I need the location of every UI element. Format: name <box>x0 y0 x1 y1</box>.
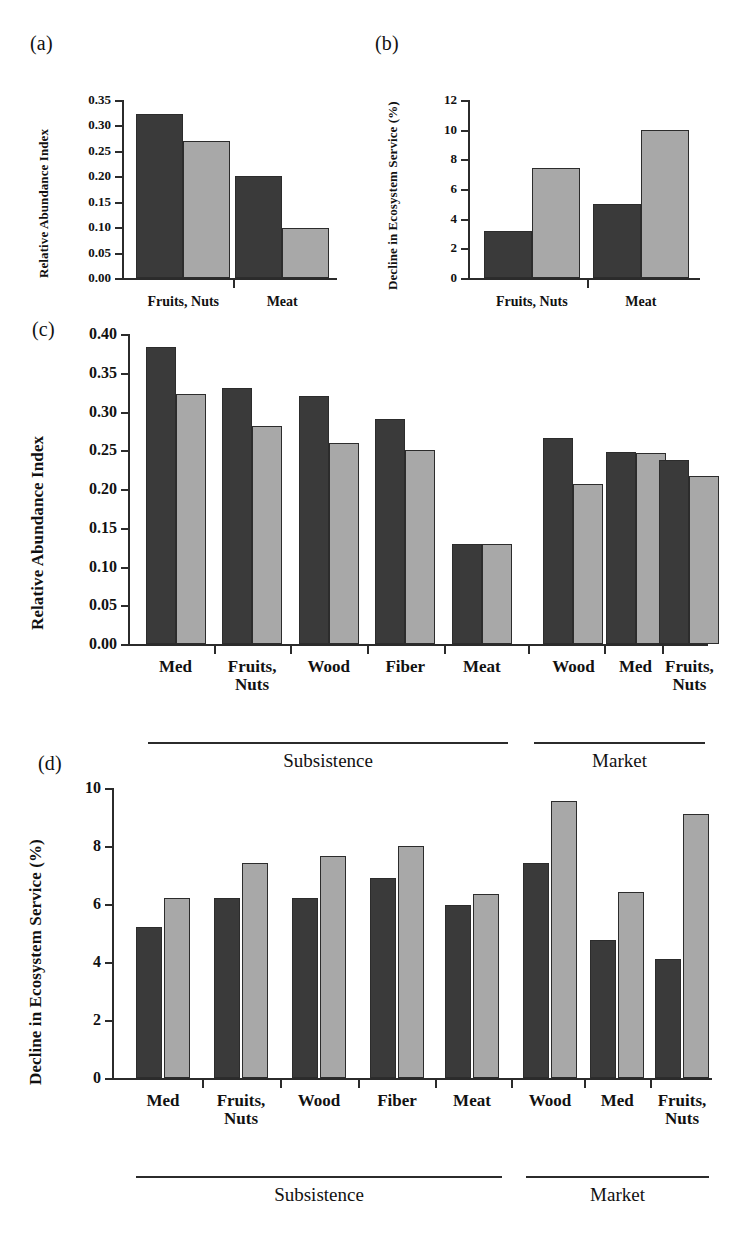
panel-c-y-tick-label: 0.40 <box>89 325 117 343</box>
panel-c-y-tick-label: 0.00 <box>89 635 117 653</box>
panel-d-group-label: Market <box>488 1184 735 1206</box>
panel-d-y-tick-label: 10 <box>85 779 101 797</box>
panel-b-bar-dark <box>484 231 532 278</box>
panel-c-bar-dark <box>299 396 329 644</box>
panel-d-bar-light <box>398 846 424 1078</box>
panel-d-x-tick <box>511 1080 513 1088</box>
panel-d-bar-dark <box>136 927 162 1078</box>
panel-c-x-tick <box>214 646 216 654</box>
panel-d-category-label: Fruits, Nuts <box>622 1092 735 1129</box>
panel-b-y-tick-label: 0 <box>451 270 458 286</box>
panel-a-y-tick <box>115 227 122 229</box>
panel-a-y-tick-label: 0.00 <box>88 270 111 286</box>
panel-c-bar-dark <box>606 452 636 644</box>
panel-b-category-label: Meat <box>581 294 701 309</box>
panel-c-y-tick <box>121 644 128 646</box>
panel-d-y-tick-label: 0 <box>93 1069 101 1087</box>
panel-c-category-label: Fruits, Nuts <box>629 658 735 695</box>
panel-d: (d) Decline in Ecosystem Service (%) 024… <box>0 740 735 1220</box>
panel-b-y-tick <box>461 248 468 250</box>
panel-a-y-tick-label: 0.15 <box>88 193 111 209</box>
panel-c-label: (c) <box>32 318 55 341</box>
panel-a-bar-dark <box>235 176 282 278</box>
panel-b-category-label: Fruits, Nuts <box>472 294 592 309</box>
panel-a-y-tick <box>115 100 122 102</box>
panel-b-x-axis <box>468 278 700 280</box>
panel-b-y-tick-label: 6 <box>451 181 458 197</box>
panel-b-y-tick-label: 4 <box>451 210 458 226</box>
panel-d-bar-dark <box>370 878 396 1078</box>
panel-d-bar-dark <box>523 863 549 1078</box>
panel-c-plot-area: 0.000.050.100.150.200.250.300.350.40 <box>128 334 708 646</box>
panel-b-plot-area: 024681012 <box>468 100 700 280</box>
panel-a-bar-light <box>282 228 329 278</box>
panel-c-y-tick <box>121 528 128 530</box>
panel-c-bar-dark <box>659 460 689 644</box>
panel-a-x-tick <box>233 280 235 288</box>
panel-c-bar-light <box>176 394 206 644</box>
panel-a-y-axis <box>122 100 124 280</box>
panel-a-category-label: Meat <box>222 294 342 309</box>
panel-d-plot-area: 0246810 <box>112 788 712 1080</box>
panel-c-bar-light <box>573 484 603 644</box>
panel-a-x-axis <box>122 278 337 280</box>
panel-b-label: (b) <box>375 32 399 55</box>
panel-b-y-tick <box>461 278 468 280</box>
panel-c-bar-dark <box>543 438 573 644</box>
panel-a-bar-light <box>183 141 230 278</box>
panel-a-y-tick <box>115 278 122 280</box>
panel-c-x-tick <box>604 646 606 654</box>
panel-c-y-axis-title: Relative Abundance Index <box>28 436 48 630</box>
panel-c-x-tick <box>528 646 530 654</box>
panel-d-y-tick <box>105 1078 112 1080</box>
panel-b-bar-light <box>532 168 580 278</box>
panel-b-y-tick <box>461 130 468 132</box>
panel-b-y-tick-label: 2 <box>451 240 458 256</box>
panel-d-bar-light <box>618 892 644 1078</box>
panel-d-y-axis-title: Decline in Ecosystem Service (%) <box>26 839 46 1085</box>
panel-b-y-tick <box>461 159 468 161</box>
panel-c-bar-dark <box>452 544 482 644</box>
panel-d-bar-dark <box>292 898 318 1078</box>
panel-c-y-tick <box>121 412 128 414</box>
panel-c-x-tick <box>290 646 292 654</box>
panel-c-y-tick-label: 0.35 <box>89 363 117 381</box>
panel-d-bar-dark <box>655 959 681 1078</box>
panel-d-bar-dark <box>214 898 240 1078</box>
panel-c-y-tick-label: 0.25 <box>89 441 117 459</box>
panel-d-x-tick <box>584 1080 586 1088</box>
panel-a-y-tick <box>115 253 122 255</box>
panel-c-x-tick <box>367 646 369 654</box>
panel-b-y-tick-label: 12 <box>444 92 457 108</box>
panel-c-bar-dark <box>146 347 176 644</box>
panel-d-bar-light <box>473 894 499 1078</box>
panel-a-y-tick-label: 0.20 <box>88 168 111 184</box>
panel-d-bar-light <box>683 814 709 1078</box>
panel-d-y-tick-label: 4 <box>93 953 101 971</box>
panel-a: (a) Relative Abundance Index 0.000.050.1… <box>0 0 360 310</box>
panel-a-y-tick <box>115 176 122 178</box>
panel-d-y-tick <box>105 904 112 906</box>
panel-c-bar-light <box>482 544 512 644</box>
panel-a-y-tick-label: 0.05 <box>88 244 111 260</box>
panel-d-group-label: Subsistence <box>189 1184 449 1206</box>
panel-d-y-tick-label: 8 <box>93 837 101 855</box>
panel-b-y-tick-label: 10 <box>444 121 457 137</box>
panel-a-bar-dark <box>136 114 183 278</box>
panel-d-bar-light <box>320 856 346 1078</box>
panel-b-x-tick <box>587 280 589 288</box>
panel-b-y-tick-label: 8 <box>451 151 458 167</box>
panel-d-y-tick <box>105 1020 112 1022</box>
panel-b-y-tick <box>461 100 468 102</box>
panel-c-y-tick <box>121 489 128 491</box>
panel-b-y-tick <box>461 219 468 221</box>
panel-c-bar-light <box>689 476 719 644</box>
panel-c-y-axis <box>128 334 130 646</box>
panel-c-bar-light <box>405 450 435 644</box>
panel-c-y-tick <box>121 450 128 452</box>
panel-a-y-tick-label: 0.25 <box>88 143 111 159</box>
panel-c-bar-light <box>252 426 282 644</box>
panel-d-y-axis <box>112 788 114 1080</box>
panel-c-y-tick-label: 0.10 <box>89 557 117 575</box>
panel-d-group-rule <box>136 1176 502 1178</box>
